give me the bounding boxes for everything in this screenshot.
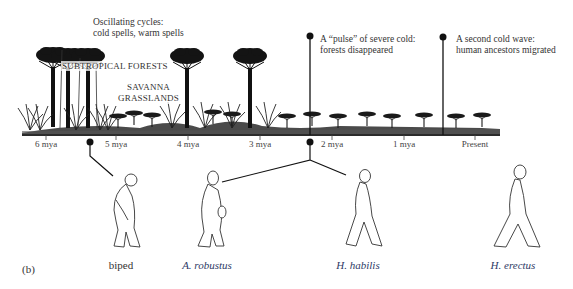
panel-label: (b): [22, 263, 35, 275]
biped-figure-icon: [114, 174, 140, 247]
tick-label-present: Present: [462, 139, 489, 149]
oscillating-line-2: cold spells, warm spells: [93, 28, 184, 39]
tick-label-5mya: 5 mya: [105, 139, 127, 149]
tick-label-2mya: 2 mya: [321, 139, 343, 149]
erectus-figure-icon: [494, 165, 540, 247]
tick-label-4mya: 4 mya: [177, 139, 199, 149]
cold-pulse-note: A “pulse” of severe cold: forests disapp…: [320, 34, 416, 56]
cold-pulse-line-1: A “pulse” of severe cold:: [320, 34, 416, 45]
second-cold-wave-note: A second cold wave: human ancestors migr…: [456, 34, 556, 56]
robustus-figure-icon: [198, 171, 226, 247]
species-label-a-robustus: A. robustus: [182, 259, 232, 271]
oscillating-line-1: Oscillating cycles:: [93, 17, 184, 28]
tick-label-3mya: 3 mya: [249, 139, 271, 149]
tick-label-6mya: 6 mya: [35, 139, 57, 149]
savanna-line-1: SAVANNA: [118, 82, 179, 93]
savanna-line-2: GRASSLANDS: [118, 93, 179, 104]
cold-pulse-line-2: forests disappeared: [320, 45, 416, 56]
savanna-grasslands-label: SAVANNA GRASSLANDS: [117, 82, 180, 104]
species-label-biped: biped: [109, 259, 133, 271]
second-wave-line-1: A second cold wave:: [456, 34, 556, 45]
subtropical-forests-label: SUBTROPICAL FORESTS: [61, 61, 169, 71]
oscillating-cycles-note: Oscillating cycles: cold spells, warm sp…: [93, 17, 184, 39]
evolution-climate-diagram: Oscillating cycles: cold spells, warm sp…: [0, 0, 573, 289]
habilis-figure-icon: [346, 170, 382, 247]
second-cold-wave-marker: [440, 34, 447, 136]
second-wave-line-2: human ancestors migrated: [456, 45, 556, 56]
tick-label-1mya: 1 mya: [393, 139, 415, 149]
species-label-h-erectus: H. erectus: [491, 259, 536, 271]
species-label-h-habilis: H. habilis: [336, 259, 379, 271]
